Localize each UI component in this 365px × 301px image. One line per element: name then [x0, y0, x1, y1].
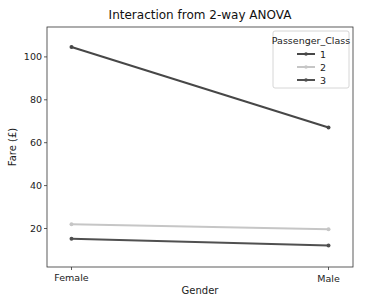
series-class-2: [70, 222, 331, 231]
x-axis: Female Male: [54, 267, 340, 284]
x-tick-male: Male: [317, 273, 340, 284]
y-axis-label: Fare (£): [7, 128, 18, 166]
svg-text:2: 2: [320, 62, 326, 73]
x-tick-female: Female: [54, 272, 89, 283]
chart-title: Interaction from 2-way ANOVA: [109, 8, 293, 22]
y-tick-40: 40: [30, 180, 42, 191]
svg-text:3: 3: [320, 75, 326, 86]
svg-text:1: 1: [320, 49, 326, 60]
y-axis: 20 40 60 80 100: [24, 51, 47, 234]
y-tick-80: 80: [30, 94, 42, 105]
y-tick-60: 60: [30, 137, 42, 148]
legend: Passenger_Class 1 2 3: [272, 31, 350, 88]
series-class-3: [70, 237, 331, 248]
y-tick-20: 20: [30, 223, 42, 234]
interaction-plot: Interaction from 2-way ANOVA 20 40 60 80…: [0, 0, 365, 301]
y-tick-100: 100: [24, 51, 42, 62]
legend-title: Passenger_Class: [272, 35, 350, 46]
x-axis-label: Gender: [182, 285, 220, 296]
